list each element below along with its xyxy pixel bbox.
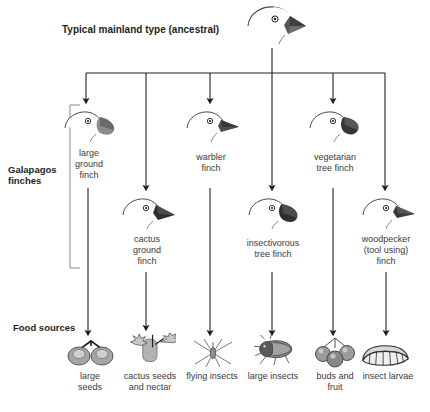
- finch-head-icon-large-ground-finch: [62, 108, 118, 142]
- finch-label-line1: insectivorous: [247, 238, 300, 248]
- finch-label-line2: tree finch: [316, 163, 353, 173]
- finch-head-icon-cactus-ground-finch: [120, 195, 176, 229]
- finch-label-line2: finch: [201, 163, 220, 173]
- label-flying-insects: flying insects: [177, 371, 247, 382]
- label-insectivorous-tree-finch: insectivorous tree finch: [234, 238, 312, 260]
- ancestral-finch-head-icon: [244, 4, 308, 44]
- food-label-line1: large: [80, 371, 100, 381]
- label-warbler-finch: warbler finch: [180, 152, 242, 174]
- label-insect-larvae: insect larvae: [352, 371, 424, 382]
- finch-label-line2: ground: [75, 159, 103, 169]
- beetle-icon: [246, 335, 300, 367]
- crane-fly-icon: [186, 337, 240, 369]
- finch-label-line1: woodpecker: [362, 234, 411, 244]
- label-vegetarian-tree-finch: vegetarian tree finch: [301, 152, 369, 174]
- berries-icon: [308, 336, 362, 368]
- galapagos-label-line2: finches: [8, 175, 41, 186]
- finch-head-icon-warbler-finch: [184, 108, 240, 142]
- finch-label-line3: finch: [137, 256, 156, 266]
- finch-label-line2: tree finch: [254, 249, 291, 259]
- cactus-flower-icon: [122, 333, 176, 365]
- finch-head-icon-woodpecker-finch: [360, 195, 416, 229]
- finch-head-icon-vegetarian-tree-finch: [307, 108, 363, 142]
- finch-adaptive-radiation-diagram: Typical mainland type (ancestral) Galapa…: [0, 0, 430, 412]
- label-large-insects: large insects: [240, 371, 306, 382]
- finch-label-line2: ground: [133, 245, 161, 255]
- label-large-ground-finch: large ground finch: [58, 148, 120, 181]
- finch-label-line1: cactus: [134, 234, 160, 244]
- page-title: Typical mainland type (ancestral): [62, 24, 219, 35]
- finch-label-line1: large: [79, 148, 99, 158]
- label-cactus-ground-finch: cactus ground finch: [116, 234, 178, 267]
- food-label-line1: buds and: [316, 371, 353, 381]
- food-label-line1: flying insects: [186, 371, 238, 381]
- finch-label-line1: warbler: [196, 152, 226, 162]
- larva-icon: [358, 340, 412, 372]
- food-label-line1: insect larvae: [363, 371, 414, 381]
- food-label-line2: seeds: [78, 382, 102, 392]
- galapagos-label-line1: Galapagos: [8, 164, 57, 175]
- food-label-line1: large insects: [248, 371, 299, 381]
- finch-head-icon-insectivorous-tree-finch: [246, 195, 302, 229]
- finch-label-line3: finch: [376, 256, 395, 266]
- label-woodpecker-finch: woodpecker (tool using) finch: [349, 234, 423, 267]
- seeds-icon: [64, 337, 118, 369]
- food-label-line2: fruit: [327, 382, 342, 392]
- food-label-line2: and nectar: [129, 382, 172, 392]
- finch-label-line2: (tool using): [364, 245, 409, 255]
- food-sources-label: Food sources: [13, 322, 75, 333]
- finch-label-line1: vegetarian: [314, 152, 356, 162]
- finch-label-line3: finch: [79, 170, 98, 180]
- food-label-line1: cactus seeds: [124, 371, 177, 381]
